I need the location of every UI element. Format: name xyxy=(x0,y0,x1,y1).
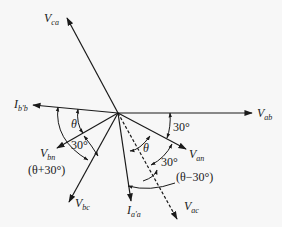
angle-label: θ xyxy=(71,117,77,131)
angle-label: 30° xyxy=(71,138,88,152)
phasor-lines xyxy=(33,18,252,219)
phasor-label: Ia'a xyxy=(126,203,141,219)
phasor-label: Ib'b xyxy=(13,97,28,113)
phasor-label: Vac xyxy=(184,199,199,215)
angle-label: 30° xyxy=(173,120,190,134)
phasor-i-apa xyxy=(118,113,131,201)
angle-label: θ xyxy=(143,141,149,155)
arc-theta-left xyxy=(78,109,83,133)
phasor-label: Vca xyxy=(44,11,59,27)
phasor-diagram: VcaIb'bVabVbnVanVbcIa'aVac θ30°(θ+30°)30… xyxy=(0,0,282,227)
phasor-label: Van xyxy=(189,147,204,163)
phasor-label: Vbc xyxy=(75,196,90,212)
phasor-label: Vab xyxy=(257,106,272,122)
arc-30-top-right xyxy=(167,113,170,138)
phasor-label: Vbn xyxy=(40,146,55,162)
angle-label: 30° xyxy=(161,155,178,169)
arc-theta-minus-30-leader xyxy=(128,183,175,188)
angle-label: (θ−30°) xyxy=(176,170,213,184)
phasor-i-bpb xyxy=(33,105,118,113)
angle-label: (θ+30°) xyxy=(28,163,65,177)
phasor-labels: VcaIb'bVabVbnVanVbcIa'aVac xyxy=(13,11,272,219)
phasor-v-ca xyxy=(67,18,118,113)
